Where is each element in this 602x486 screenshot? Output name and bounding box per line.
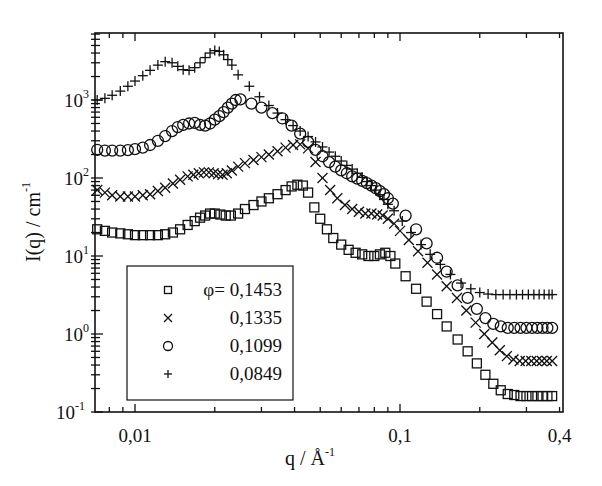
square-marker [442, 322, 451, 331]
x-marker [495, 345, 505, 355]
circle-marker [246, 98, 257, 109]
x-marker [311, 157, 321, 167]
square-marker [472, 359, 481, 368]
plus-marker [406, 228, 416, 238]
plus-marker [273, 108, 283, 118]
y-tick-label: 101 [64, 243, 89, 267]
square-marker [322, 225, 331, 234]
x-marker [404, 235, 414, 245]
plus-marker [324, 147, 334, 157]
plus-marker [190, 63, 200, 73]
square-marker [433, 310, 442, 319]
x-marker [395, 226, 405, 236]
plus-marker [425, 249, 435, 259]
plus-marker [184, 65, 194, 75]
circle-marker [488, 318, 499, 329]
x-marker [515, 356, 525, 366]
legend: φ= 0,14530,13350,10990,0849 [127, 266, 293, 400]
plus-marker [123, 81, 133, 91]
plus-marker [435, 259, 445, 269]
plus-marker [145, 65, 155, 75]
circle-marker [277, 113, 288, 124]
x-marker [442, 281, 452, 291]
x-marker [521, 356, 531, 366]
x-marker [378, 211, 388, 221]
plus-marker [200, 53, 210, 63]
plus-marker [318, 142, 328, 152]
square-marker [412, 284, 421, 293]
y-tick-label: 103 [64, 87, 89, 111]
square-marker [522, 392, 531, 401]
square-marker [463, 347, 472, 356]
y-tick-label: 100 [64, 321, 89, 345]
plus-marker [371, 185, 381, 195]
circle-marker [509, 322, 520, 333]
legend-label: φ= 0,1453 [203, 279, 282, 300]
plus-marker [195, 58, 205, 68]
square-marker [422, 297, 431, 306]
x-marker [264, 150, 274, 160]
circle-marker [137, 142, 148, 153]
legend-label: 0,1335 [230, 307, 282, 328]
x-marker [318, 173, 328, 183]
x-marker [360, 209, 370, 219]
plus-marker [205, 48, 215, 58]
x-marker [100, 188, 110, 198]
circle-marker [421, 238, 432, 249]
y-axis-label: I(q) / cm-1 [19, 182, 45, 262]
x-marker [423, 258, 433, 268]
x-axis-label: q / Å-1 [285, 445, 335, 470]
circle-marker [502, 322, 513, 333]
plus-marker [336, 156, 346, 166]
square-marker [316, 214, 325, 223]
plus-marker [264, 101, 274, 111]
y-tick-label: 10-1 [56, 399, 85, 423]
plus-marker [445, 269, 455, 279]
x-marker [526, 356, 536, 366]
x-marker [389, 219, 399, 229]
x-marker [461, 306, 471, 316]
x-marker [537, 356, 547, 366]
x-marker [227, 165, 237, 175]
x-tick-label: 0,01 [118, 425, 151, 446]
saxs-intensity-chart: 0,010,10,4 10-1100101102103 q / Å-1 I(q)… [0, 0, 602, 486]
plus-marker [330, 151, 340, 161]
x-marker [256, 152, 266, 162]
x-marker [452, 293, 462, 303]
x-marker [325, 185, 335, 195]
square-marker [401, 272, 410, 281]
x-marker [471, 318, 481, 328]
square-marker [310, 203, 319, 212]
x-tick-label: 0,4 [548, 425, 572, 446]
plus-marker [397, 216, 407, 226]
plus-marker [138, 71, 148, 81]
plus-marker [475, 288, 485, 298]
legend-label: 0,1099 [230, 335, 282, 356]
plus-marker [115, 86, 125, 96]
circle-marker [480, 313, 491, 324]
plus-marker [210, 46, 220, 56]
circle-marker [130, 144, 141, 155]
circle-marker [462, 292, 473, 303]
x-marker [547, 356, 557, 366]
square-marker [481, 370, 490, 379]
x-marker [532, 356, 542, 366]
square-marker [528, 392, 537, 401]
circle-marker [471, 303, 482, 314]
series-plus [92, 46, 557, 300]
plus-marker [233, 70, 243, 80]
plus-marker [244, 81, 254, 91]
circle-marker [256, 102, 267, 113]
y-axis: 10-1100101102103 [56, 34, 103, 423]
square-marker [453, 335, 462, 344]
plus-marker [130, 76, 140, 86]
y-tick-label: 102 [64, 165, 89, 189]
x-tick-label: 0,1 [388, 425, 412, 446]
x-marker [383, 214, 393, 224]
plus-marker [281, 115, 291, 125]
x-marker [542, 356, 552, 366]
x-marker [145, 189, 155, 199]
x-marker [248, 155, 258, 165]
legend-label: 0,0849 [230, 363, 282, 384]
